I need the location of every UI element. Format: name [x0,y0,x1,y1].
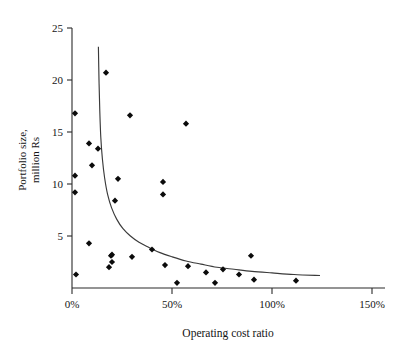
data-point-marker [115,176,121,182]
data-point-marker [160,179,166,185]
y-axis-title-line2: million Rs [29,137,41,183]
data-point-marker [162,262,168,268]
data-point-marker [160,191,166,197]
data-point-marker [72,189,78,195]
scatter-chart-figure: 510152025 0%50%100%150% Operating cost r… [0,0,409,355]
data-point-marker [72,173,78,179]
y-tick-label: 25 [52,22,64,34]
data-point-marker [203,269,209,275]
y-axis-title: Portfolio size, million Rs [16,129,41,191]
fit-curve-group [98,47,320,276]
y-axis-group: 510152025 [52,22,72,288]
x-tick-label: 150% [359,298,385,310]
data-point-marker [109,259,115,265]
data-point-marker [95,146,101,152]
data-point-marker [183,121,189,127]
data-point-marker [185,263,191,269]
data-points-group [72,70,299,286]
data-point-marker [86,140,92,146]
data-point-marker [220,266,226,272]
y-tick-label: 20 [52,74,64,86]
data-point-marker [236,271,242,277]
data-point-marker [293,278,299,284]
x-axis-group: 0%50%100%150% [65,288,385,310]
data-point-marker [72,110,78,116]
data-point-marker [86,240,92,246]
y-tick-label: 15 [52,126,64,138]
y-tick-label: 5 [58,230,64,242]
y-tick-group: 510152025 [52,22,72,242]
data-point-marker [248,253,254,259]
data-point-marker [73,271,79,277]
x-tick-label: 0% [65,298,80,310]
data-point-marker [174,280,180,286]
y-axis-title-line1: Portfolio size, [16,129,28,191]
data-point-marker [212,280,218,286]
data-point-marker [103,70,109,76]
x-tick-group: 0%50%100%150% [65,288,385,310]
data-point-marker [106,264,112,270]
data-point-marker [112,198,118,204]
x-tick-label: 100% [259,298,285,310]
data-point-marker [129,254,135,260]
y-tick-label: 10 [52,178,64,190]
x-axis-title: Operating cost ratio [182,327,274,340]
data-point-marker [251,277,257,283]
fit-curve-path [98,47,320,276]
data-point-marker [127,112,133,118]
data-point-marker [89,162,95,168]
x-tick-label: 50% [162,298,182,310]
plot-canvas: 510152025 0%50%100%150% Operating cost r… [0,0,409,355]
